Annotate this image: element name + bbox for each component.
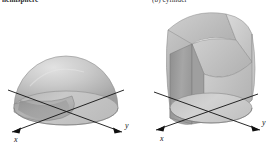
hemisphere-drawing: y x	[0, 0, 140, 146]
figure-steinmetz: y x	[140, 0, 280, 146]
axis-y-arrowhead	[113, 128, 122, 134]
axis-x-arrowhead	[12, 128, 21, 134]
axis-y-label: y	[124, 121, 129, 130]
figure-hemisphere: y x	[0, 0, 140, 146]
axis-x-label: x	[13, 135, 18, 144]
axis-x-arrowhead	[156, 126, 165, 132]
axis-y-label: y	[261, 118, 266, 127]
steinmetz-solid	[166, 13, 255, 125]
axis-y-arrowhead	[251, 126, 260, 132]
axis-x-label: x	[159, 134, 164, 143]
hemisphere-solid	[14, 56, 118, 125]
figure-plate: hemisphere (b) cylinder	[0, 0, 280, 146]
steinmetz-drawing: y x	[140, 0, 280, 146]
